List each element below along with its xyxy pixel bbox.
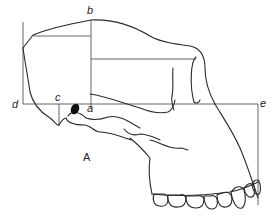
occipital-curve [23,48,59,125]
skull-diagram [0,0,280,218]
basicranium [59,118,131,140]
label-e: e [260,98,266,109]
skull-outline [23,20,258,198]
label-a: a [87,103,93,114]
tooth-molar-2 [168,195,186,207]
tooth-molar-3 [153,194,168,206]
malar-line [124,129,160,140]
temporal-line [90,94,175,113]
maxilla-contour [130,138,152,194]
label-d: d [12,99,18,110]
tooth-molar-1 [186,196,204,208]
cranial-vault [23,20,215,104]
orbit-rim [191,57,200,103]
label-b: b [87,5,93,16]
figure-caption: A [83,152,90,163]
zygomatic-arch [68,112,140,128]
tooth-premolar-2 [204,196,217,209]
alveolar-line [152,182,258,195]
label-c: c [55,92,61,103]
tooth-premolar-1 [217,192,232,207]
measurement-lines [23,20,258,205]
zygomatic-root [150,140,188,150]
